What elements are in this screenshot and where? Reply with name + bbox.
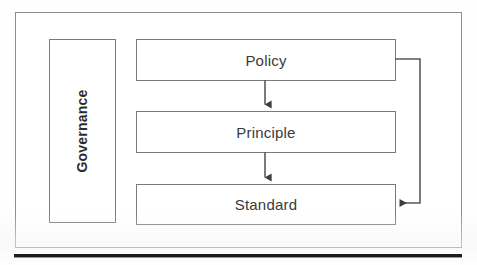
node-principle-label: Principle <box>236 124 295 141</box>
outer-frame: Governance Policy Principle Standard <box>15 12 462 248</box>
node-policy-label: Policy <box>245 52 286 69</box>
node-standard[interactable]: Standard <box>136 184 396 225</box>
node-governance-label: Governance <box>75 90 91 173</box>
node-policy[interactable]: Policy <box>136 39 396 81</box>
node-principle[interactable]: Principle <box>136 111 396 153</box>
node-governance[interactable]: Governance <box>49 39 116 223</box>
horizontal-rule-shadow <box>14 257 462 258</box>
diagram-canvas: Governance Policy Principle Standard <box>0 0 477 265</box>
node-standard-label: Standard <box>235 196 297 213</box>
